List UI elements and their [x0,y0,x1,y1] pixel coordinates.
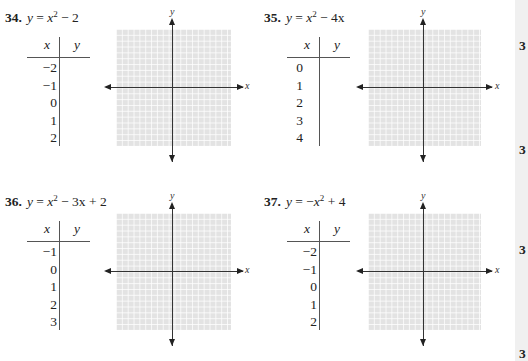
x-axis-label: x [245,80,249,91]
table-row: 1 [287,296,317,314]
coordinate-grid-34[interactable]: x y [100,8,250,158]
cutoff-problem-number: 3 [519,242,526,258]
problem-number: 35. [264,10,281,25]
table-row: 0 [287,59,303,77]
arrow-down-icon [169,339,175,346]
arrow-right-icon [237,268,244,274]
table-row: 0 [27,261,57,279]
x-axis [358,87,492,88]
problem-title: 36.y = x2 − 3x + 2 [5,194,107,210]
table-divider [319,37,320,146]
y-axis [172,204,173,346]
table-header-y: y [74,221,80,237]
table-row: −1 [27,243,57,261]
table-row: 2 [287,94,303,112]
problem-number: 37. [264,194,281,209]
table-row: 2 [287,313,317,331]
adjacent-column-strip: 3 3 3 3 [515,0,528,361]
arrow-left-icon [104,268,111,274]
table-row: 1 [27,278,57,296]
coordinate-grid-36[interactable]: x y [100,192,250,342]
cutoff-problem-number: 3 [519,346,526,361]
table-row: 4 [287,129,303,147]
arrow-down-icon [169,155,175,162]
table-row: −1 [27,77,57,95]
arrow-up-icon [169,202,175,209]
table-row: 0 [27,94,57,112]
equation: y = x2 − 4x [286,10,345,25]
equation: y = x2 − 3x + 2 [27,194,107,209]
arrow-left-icon [104,84,111,90]
table-row: −2 [287,243,317,261]
table-row: −2 [27,59,57,77]
table-header-x: x [44,221,50,237]
table-row: 3 [27,313,57,331]
x-axis-label: x [245,264,249,275]
y-axis-label: y [170,190,174,201]
coordinate-grid-35[interactable]: x y [352,8,502,158]
table-header-x: x [304,37,310,53]
arrow-right-icon [486,84,493,90]
arrow-down-icon [420,155,426,162]
arrow-left-icon [356,84,363,90]
arrow-right-icon [486,268,493,274]
arrow-up-icon [420,18,426,25]
arrow-up-icon [420,202,426,209]
table-header-y: y [74,37,80,53]
y-axis-label: y [421,190,425,201]
table-row: −1 [287,261,317,279]
arrow-left-icon [356,268,363,274]
y-axis [172,20,173,162]
y-axis-label: y [170,6,174,17]
equation: y = −x2 + 4 [286,194,346,209]
x-axis [106,87,243,88]
table-divider [59,37,60,146]
table-header-x: x [304,221,310,237]
x-axis [106,271,243,272]
y-axis-label: y [421,6,425,17]
table-row: 2 [27,296,57,314]
x-axis [358,271,492,272]
table-row: 2 [27,129,57,147]
arrow-right-icon [237,84,244,90]
equation: y = x2 − 2 [27,10,79,25]
problem-title: 35.y = x2 − 4x [264,10,345,26]
cutoff-problem-number: 3 [519,142,526,158]
x-axis-label: x [495,80,499,91]
x-axis-label: x [495,264,499,275]
table-row: 1 [27,112,57,130]
y-axis [423,20,424,162]
problem-number: 36. [5,194,22,209]
table-row: 0 [287,278,317,296]
arrow-up-icon [169,18,175,25]
coordinate-grid-37[interactable]: x y [352,192,502,342]
table-divider [319,221,320,330]
table-row: 1 [287,77,303,95]
table-row: 3 [287,112,303,130]
table-divider [59,221,60,330]
y-axis [423,204,424,346]
problem-title: 34.y = x2 − 2 [5,10,79,26]
table-header-y: y [334,37,340,53]
table-header-x: x [44,37,50,53]
cutoff-problem-number: 3 [519,38,526,54]
problem-title: 37.y = −x2 + 4 [264,194,345,210]
problem-number: 34. [5,10,22,25]
arrow-down-icon [420,339,426,346]
table-header-y: y [334,221,340,237]
